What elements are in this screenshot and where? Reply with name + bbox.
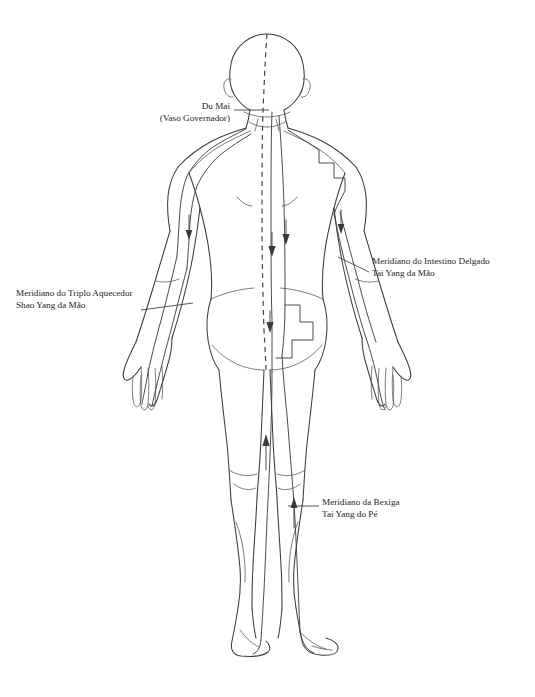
- arrow-back-outer: [282, 220, 289, 245]
- annotation-du-mai-line1: Du Mai: [202, 101, 230, 111]
- annotation-small-intestine: Meridiano do Intestino Delgado Tai Yang …: [372, 256, 532, 279]
- arrow-right-leg: [291, 497, 298, 528]
- meridian-small-intestine: [288, 130, 385, 410]
- meridian-triple-burner: [142, 129, 251, 406]
- annotation-small-intestine-line1: Meridiano do Intestino Delgado: [372, 256, 490, 266]
- arrow-sacrum: [266, 311, 273, 333]
- shoulder-outline: [178, 128, 356, 173]
- annotation-bladder-line1: Meridiano da Bexiga: [322, 497, 400, 507]
- annotation-triple-burner-line2: Shao Yang da Mão: [16, 300, 186, 312]
- flow-arrows: [186, 210, 345, 528]
- annotation-triple-burner-line1: Meridiano do Triplo Aquecedor: [16, 288, 133, 298]
- body-illustration: [0, 0, 535, 697]
- meridian-small-intestine-sacral: [276, 305, 313, 358]
- left-arm-outline: [136, 208, 200, 342]
- annotation-bladder-line2: Tai Yang do Pé: [322, 509, 472, 521]
- meridian-bladder-legs: [253, 632, 314, 654]
- annotation-du-mai-line2: (Vaso Governador): [118, 113, 230, 125]
- torso-outline: [168, 167, 367, 299]
- annotation-bladder: Meridiano da Bexiga Tai Yang do Pé: [322, 497, 472, 520]
- head-outline: [224, 34, 310, 110]
- annotation-du-mai: Du Mai (Vaso Governador): [118, 101, 230, 124]
- annotation-small-intestine-line2: Tai Yang da Mão: [372, 268, 532, 280]
- arrow-back-inner: [268, 232, 275, 257]
- arrow-left-leg: [262, 434, 269, 470]
- annotation-triple-burner: Meridiano do Triplo Aquecedor Shao Yang …: [16, 288, 186, 311]
- meridian-diagram: Du Mai (Vaso Governador) Meridiano do Tr…: [0, 0, 535, 697]
- arrow-right-arm: [338, 210, 345, 234]
- pelvis-outline: [207, 299, 327, 370]
- arrow-left-arm: [186, 215, 193, 240]
- neck-outline: [244, 110, 290, 131]
- meridian-du-mai: [262, 34, 267, 372]
